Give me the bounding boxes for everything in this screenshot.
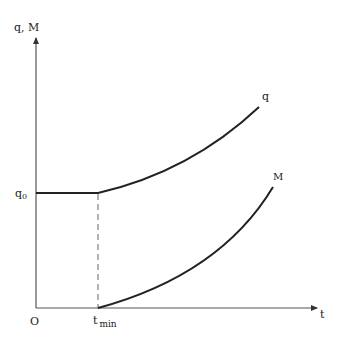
- y-axis-label: q, M: [14, 21, 39, 34]
- q0-sub: 0: [22, 192, 27, 201]
- q-curve-label: q: [262, 90, 269, 103]
- tmin-sub: min: [99, 319, 116, 329]
- origin-label: O: [30, 315, 39, 328]
- x-axis-label: t: [320, 308, 325, 321]
- q0-label: q0: [15, 187, 27, 201]
- tmin-label: tmin: [93, 314, 117, 329]
- m-curve: [98, 187, 273, 308]
- tmin-main: t: [93, 314, 98, 327]
- q-curve: [98, 107, 259, 193]
- diagram-canvas: q, M t O q0 tmin q M: [0, 0, 339, 339]
- q0-main: q: [15, 187, 22, 200]
- m-curve-label: M: [273, 171, 283, 182]
